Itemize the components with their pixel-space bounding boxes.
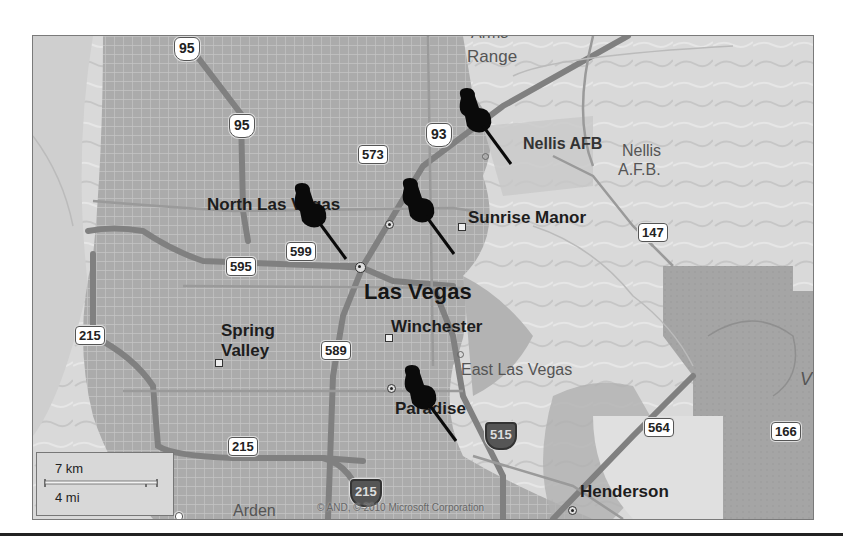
shield-215-south: 215 <box>228 437 258 456</box>
label-spring-valley: Spring Valley <box>221 321 275 361</box>
scale-legend: 7 km 4 mi <box>36 452 174 516</box>
label-sunrise-manor: Sunrise Manor <box>468 208 586 228</box>
horizontal-divider <box>0 533 843 536</box>
label-nellis-afb-area: Nellis A.F.B. <box>622 141 661 179</box>
shield-215-west: 215 <box>75 326 105 345</box>
label-nellis-line1: Nellis <box>622 141 661 160</box>
label-range: Range <box>467 47 517 67</box>
map-copyright: © AND, © 2010 Microsoft Corporation <box>317 502 484 513</box>
shield-564: 564 <box>644 418 674 437</box>
label-east-las-vegas: East Las Vegas <box>461 361 572 379</box>
shield-589: 589 <box>321 341 351 360</box>
map-view[interactable]: Arms Range Nellis AFB Nellis A.F.B. Nort… <box>32 35 814 520</box>
label-arms-range-partial: Arms <box>471 35 508 42</box>
pushpin-paradise-icon[interactable] <box>398 363 468 443</box>
label-henderson: Henderson <box>580 482 669 502</box>
scale-bar-icon <box>43 479 159 487</box>
pushpin-sunrise-manor-icon[interactable] <box>396 176 466 256</box>
label-spring-valley-line2: Valley <box>221 341 275 361</box>
shield-us-93: 93 <box>426 123 452 147</box>
label-nellis-afb: Nellis AFB <box>523 135 602 153</box>
shield-573: 573 <box>358 145 388 164</box>
label-spring-valley-line1: Spring <box>221 321 275 341</box>
shield-i-515: 515 <box>485 422 517 450</box>
label-right-edge-partial: V <box>800 369 812 390</box>
shield-147: 147 <box>638 223 668 242</box>
scale-imperial-label: 4 mi <box>55 490 80 505</box>
shield-166: 166 <box>771 422 801 441</box>
henderson-marker <box>568 506 577 515</box>
shield-us-95-south: 95 <box>229 114 255 138</box>
east-las-vegas-marker <box>457 351 464 358</box>
paradise-marker <box>387 384 396 393</box>
las-vegas-marker <box>355 262 366 273</box>
scale-metric-label: 7 km <box>55 461 83 476</box>
spring-valley-marker <box>215 359 223 367</box>
winchester-marker <box>385 334 393 342</box>
label-arden: Arden <box>233 502 276 520</box>
shield-us-95-north: 95 <box>174 37 200 61</box>
label-nellis-line2: A.F.B. <box>618 160 661 179</box>
north-las-vegas-marker <box>385 220 394 229</box>
shield-159-partial <box>175 512 183 520</box>
label-las-vegas: Las Vegas <box>364 279 472 305</box>
map-base-layer[interactable] <box>33 36 813 519</box>
pushpin-north-las-vegas-icon[interactable] <box>288 181 358 261</box>
shield-595: 595 <box>226 257 256 276</box>
pushpin-nellis-icon[interactable] <box>453 86 523 166</box>
label-winchester: Winchester <box>391 317 482 337</box>
